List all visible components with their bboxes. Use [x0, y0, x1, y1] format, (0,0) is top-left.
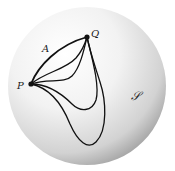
point-q-dot: [84, 34, 89, 39]
label-q: Q: [91, 28, 99, 39]
label-a: A: [41, 43, 49, 54]
label-p: P: [16, 80, 24, 91]
point-p-dot: [28, 81, 33, 86]
diagram-svg: P Q A 𝒮: [0, 0, 175, 171]
sphere-diagram: P Q A 𝒮: [0, 0, 175, 171]
